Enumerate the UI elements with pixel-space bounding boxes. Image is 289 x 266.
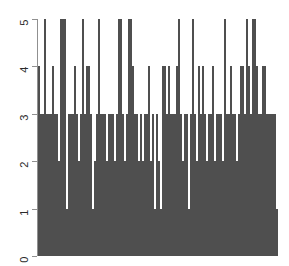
plot-area [38, 14, 278, 256]
bar [276, 209, 278, 256]
y-axis-tick-mark [32, 19, 37, 20]
y-axis-tick-label-wrap: 5 [0, 14, 24, 25]
y-axis-tick-mark [32, 209, 37, 210]
y-axis-line [37, 19, 38, 256]
y-axis-tick-mark [32, 114, 37, 115]
y-axis-tick-mark [32, 66, 37, 67]
y-axis-tick-label: 1 [19, 209, 30, 239]
y-axis-tick-label-wrap: 2 [0, 156, 24, 167]
y-axis-tick-mark [32, 161, 37, 162]
y-axis-tick-label: 3 [19, 114, 30, 144]
y-axis-tick-label-wrap: 3 [0, 109, 24, 120]
y-axis-tick-label: 0 [19, 257, 30, 266]
bar-chart-figure: 012345 [0, 0, 289, 266]
y-axis-tick-label-wrap: 4 [0, 61, 24, 72]
y-axis-tick-label: 2 [19, 162, 30, 192]
y-axis-tick-label: 5 [19, 20, 30, 50]
y-axis-tick-label: 4 [19, 67, 30, 97]
y-axis-tick-label-wrap: 1 [0, 204, 24, 215]
y-axis-tick-label-wrap: 0 [0, 251, 24, 262]
bar-series [38, 19, 278, 256]
y-axis-tick-mark [32, 256, 37, 257]
